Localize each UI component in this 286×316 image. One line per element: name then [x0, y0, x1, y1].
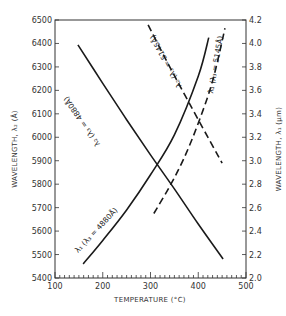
y-left-tick-label: 6100 — [32, 110, 52, 119]
y-left-tick-label: 6300 — [32, 63, 52, 72]
wavelength-temperature-chart: 1002003004005005400550056005700580059006… — [0, 0, 286, 316]
y-right-tick-label: 3.4 — [249, 110, 262, 119]
y-right-tick-label: 2.4 — [249, 227, 262, 236]
y-left-tick-label: 6500 — [32, 16, 52, 25]
axis-ticks: 1002003004005005400550056005700580059006… — [32, 16, 262, 291]
y-right-tick-label: 2.8 — [249, 180, 262, 189]
x-tick-label: 300 — [143, 282, 158, 291]
y-left-tick-label: 6000 — [32, 133, 52, 142]
y-left-tick-label: 5400 — [32, 274, 52, 283]
y-axis-right-title: WAVELENGTH, λ₁ (μm) — [275, 107, 283, 191]
y-right-tick-label: 4.0 — [249, 39, 262, 48]
x-axis-title: TEMPERATURE (°C) — [113, 296, 186, 304]
x-tick-label: 400 — [191, 282, 206, 291]
y-left-tick-label: 5700 — [32, 204, 52, 213]
y-right-tick-label: 4.2 — [249, 16, 262, 25]
x-tick-label: 100 — [47, 282, 62, 291]
y-left-tick-label: 5600 — [32, 227, 52, 236]
curve-label-l1-5145: λ₁ (λ₃ = 5145Å) — [206, 35, 225, 94]
y-left-tick-label: 6400 — [32, 39, 52, 48]
y-right-tick-label: 3.6 — [249, 86, 262, 95]
y-right-tick-label: 2.6 — [249, 204, 262, 213]
y-axis-left-title: WAVELENGTH, λ₂ (Å) — [10, 110, 19, 188]
x-tick-label: 500 — [238, 282, 253, 291]
curve-label-l2-5145: λ₂ (λ₃ = 5145Å) — [148, 33, 183, 89]
y-right-tick-label: 2.0 — [249, 274, 262, 283]
y-right-tick-label: 2.2 — [249, 251, 262, 260]
y-right-tick-label: 3.0 — [249, 157, 262, 166]
y-right-tick-label: 3.8 — [249, 63, 262, 72]
x-tick-label: 200 — [95, 282, 110, 291]
curve-label-l2-4880: λ₂ (λ₃ = 4880Å) — [62, 95, 102, 149]
y-left-tick-label: 5500 — [32, 251, 52, 260]
y-right-tick-label: 3.2 — [249, 133, 262, 142]
y-left-tick-label: 5900 — [32, 157, 52, 166]
y-left-tick-label: 5800 — [32, 180, 52, 189]
y-left-tick-label: 6200 — [32, 86, 52, 95]
